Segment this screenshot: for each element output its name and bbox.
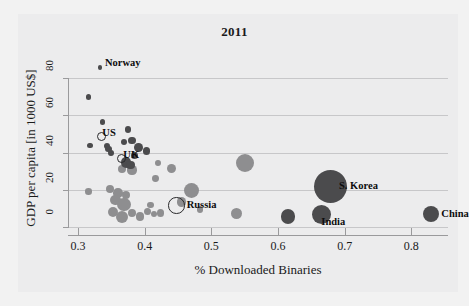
label-us: US <box>102 127 115 138</box>
point-labels: NorwayUSUKRussiaS. KoreaIndiaChina <box>0 0 469 306</box>
label-india: India <box>321 216 345 227</box>
label-norway: Norway <box>105 57 141 68</box>
label-china: China <box>441 208 468 219</box>
label-s-korea: S. Korea <box>339 180 378 191</box>
label-uk: UK <box>123 149 139 160</box>
chart-figure: 2011 020406080 0.30.40.50.60.70.8 GDP pe… <box>0 0 469 306</box>
label-russia: Russia <box>187 199 217 210</box>
